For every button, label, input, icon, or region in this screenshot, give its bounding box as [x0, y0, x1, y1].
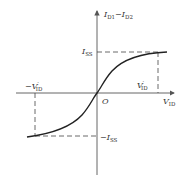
iss-positive-label: ISS — [81, 47, 93, 57]
vid-positive-label: V′ID — [137, 80, 148, 91]
y-axis-label: ID1−ID2 — [103, 10, 133, 20]
origin-label: O — [102, 97, 109, 106]
x-axis-label: VID — [163, 97, 176, 107]
iss-negative-label: −ISS — [100, 133, 118, 143]
transfer-characteristic-diagram: ID1−ID2 ISS −ISS V′ID −V′ID VID O — [0, 0, 186, 181]
vid-negative-label: −V′ID — [25, 81, 43, 92]
